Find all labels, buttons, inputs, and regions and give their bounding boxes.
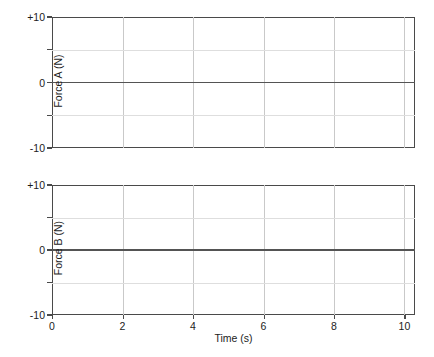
x-tick-label: 2	[120, 320, 126, 332]
x-tick	[334, 315, 335, 319]
x-tick-label: 4	[190, 320, 196, 332]
y-tick-major	[47, 16, 52, 17]
plot-area-b	[52, 185, 415, 315]
data-trace-a	[52, 82, 415, 84]
x-tick-label: 0	[49, 320, 55, 332]
y-tick-label: -10	[30, 142, 45, 154]
x-tick	[52, 315, 53, 319]
horizontal-gridline	[52, 218, 415, 219]
horizontal-gridline	[52, 115, 415, 116]
force-time-figure: +100-10 Force A (N) +100-10 0246810 Forc…	[0, 0, 434, 357]
x-tick-label: 10	[399, 320, 411, 332]
y-tick-label: -10	[30, 309, 45, 321]
chart-panel-force-b: +100-10 0246810 Force B (N)	[52, 185, 415, 315]
data-trace-b	[52, 249, 415, 251]
y-tick-label: 0	[39, 77, 45, 89]
x-axis-title: Time (s)	[52, 332, 415, 344]
x-tick-label: 8	[331, 320, 337, 332]
y-tick-major	[47, 184, 52, 185]
horizontal-gridline	[52, 283, 415, 284]
x-tick	[123, 315, 124, 319]
y-axis-title-b: Force B (N)	[52, 198, 64, 298]
x-tick	[193, 315, 194, 319]
horizontal-gridline	[52, 50, 415, 51]
plot-area-a	[52, 17, 415, 148]
x-tick-label: 6	[261, 320, 267, 332]
y-tick-major	[47, 147, 52, 148]
y-tick-label: +10	[27, 179, 45, 191]
chart-panel-force-a: +100-10 Force A (N)	[52, 17, 415, 148]
y-tick-label: +10	[27, 11, 45, 23]
x-tick	[264, 315, 265, 319]
x-tick	[404, 315, 405, 319]
y-tick-label: 0	[39, 244, 45, 256]
y-axis-title-a: Force A (N)	[52, 31, 64, 131]
